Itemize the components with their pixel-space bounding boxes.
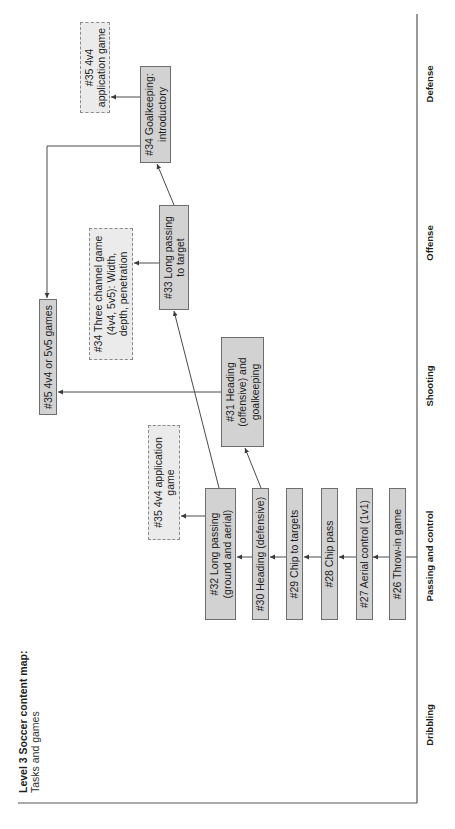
- edge-33-34-gk: [157, 164, 174, 205]
- node-label: #29 Chip to targets: [288, 510, 301, 599]
- edge-32-33: [174, 311, 219, 488]
- node-35-4v4-application-game-lower: #35 4v4 application game: [148, 425, 180, 540]
- node-35-4v4-or-5v5-games: #35 4v4 or 5v5 games: [39, 299, 57, 415]
- node-label: #35 4v4 or 5v5 games: [42, 305, 55, 409]
- node-26-throw-in-game: #26 Throw-in game: [389, 488, 406, 620]
- node-label: #27 Aerial control (1v1): [358, 500, 371, 608]
- node-label-line-2: (offensive) and: [236, 357, 249, 426]
- node-label-line-2: game: [164, 469, 177, 495]
- node-label-line-1: #35 4v4: [83, 49, 96, 86]
- axis-label-offense: Offense: [424, 163, 438, 323]
- node-30-heading-defensive: #30 Heading (defensive): [252, 488, 269, 620]
- node-label-line-2: (4v4, 5v5): Width,: [105, 253, 118, 335]
- node-label-line-3: depth, penetration: [117, 252, 130, 337]
- node-label: #30 Heading (defensive): [254, 497, 267, 611]
- edge-30-31: [245, 448, 261, 488]
- node-29-chip-to-targets: #29 Chip to targets: [286, 488, 303, 620]
- axis-label-passing-and-control: Passing and control: [424, 476, 438, 636]
- node-31-heading-offensive-goalkeeping: #31 Heading (offensive) and goalkeeping: [221, 337, 264, 447]
- node-34-goalkeeping-introductory: #34 Goalkeeping: introductory: [140, 66, 171, 163]
- node-32-long-passing: #32 Long passing (ground and aerial): [205, 488, 236, 620]
- node-label-line-1: #34 Three channel game: [92, 236, 105, 353]
- node-28-chip-pass: #28 Chip pass: [321, 488, 338, 620]
- node-label: #26 Throw-in game: [391, 509, 404, 599]
- node-label-line-3: goalkeeping: [249, 364, 262, 421]
- node-34-three-channel-game: #34 Three channel game (4v4, 5v5): Width…: [89, 228, 133, 360]
- node-27-aerial-control: #27 Aerial control (1v1): [356, 488, 373, 620]
- node-label-line-1: #31 Heading: [224, 362, 237, 422]
- node-label-line-2: (ground and aerial): [221, 510, 234, 599]
- node-label-line-1: #35 4v4 application: [152, 437, 165, 528]
- node-35-4v4-application-game-top: #35 4v4 application game: [80, 22, 110, 113]
- node-label-line-1: #33 Long passing: [162, 216, 175, 299]
- node-33-long-passing-to-target: #33 Long passing to target: [159, 205, 189, 310]
- node-label-line-1: #34 Goalkeeping:: [143, 73, 156, 155]
- diagram-subtitle: Tasks and games: [29, 711, 41, 793]
- node-label-line-2: introductory: [156, 87, 169, 142]
- diagram-title: Level 3 Soccer content map:: [17, 651, 29, 793]
- axis-label-shooting: Shooting: [424, 306, 438, 466]
- node-label-line-1: #32 Long passing: [208, 513, 221, 596]
- node-label-line-2: to target: [174, 238, 187, 277]
- node-label-line-2: application game: [95, 28, 108, 107]
- axis-label-defense: Defense: [424, 4, 438, 164]
- axis-label-dribbling: Dribbling: [424, 645, 438, 805]
- content-map-diagram: Level 3 Soccer content map: Tasks and ga…: [0, 0, 455, 829]
- node-label: #28 Chip pass: [323, 520, 336, 587]
